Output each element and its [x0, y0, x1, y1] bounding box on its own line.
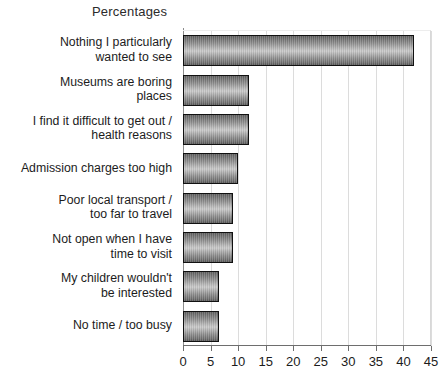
x-axis-tick-label: 45 [424, 354, 438, 369]
x-axis-tick-label: 15 [258, 354, 272, 369]
bar [183, 153, 238, 184]
x-axis-line [183, 345, 431, 346]
category-label: My children wouldn't be interested [0, 271, 172, 300]
x-axis-tick [348, 346, 349, 351]
x-axis-tick-label: 5 [207, 354, 214, 369]
category-label: Not open when I have time to visit [0, 232, 172, 261]
category-label: Nothing I particularly wanted to see [0, 35, 172, 64]
x-axis-tick [403, 346, 404, 351]
gridline [348, 31, 349, 346]
bar [183, 271, 219, 302]
x-axis-tick-label: 35 [369, 354, 383, 369]
x-axis-tick-label: 25 [314, 354, 328, 369]
gridline [266, 31, 267, 346]
category-label: I find it difficult to get out / health … [0, 114, 172, 143]
x-axis-tick [238, 346, 239, 351]
category-label: No time / too busy [0, 318, 172, 333]
bar [183, 193, 233, 224]
category-label: Museums are boring places [0, 75, 172, 104]
x-axis-tick [211, 346, 212, 351]
category-label: Admission charges too high [0, 161, 172, 176]
gridline [376, 31, 377, 346]
gridline [321, 31, 322, 346]
bar [183, 114, 249, 145]
plot-area [183, 30, 431, 345]
gridline [293, 31, 294, 346]
x-axis-tick [376, 346, 377, 351]
bar [183, 75, 249, 106]
bar [183, 232, 233, 263]
gridline [431, 31, 432, 346]
x-axis-tick-label: 20 [286, 354, 300, 369]
x-axis-tick-label: 0 [179, 354, 186, 369]
category-label-column: Nothing I particularly wanted to seeMuse… [0, 30, 180, 345]
bar-chart: Percentages Nothing I particularly wante… [0, 0, 439, 378]
x-axis-tick [183, 346, 184, 351]
x-axis-tick [321, 346, 322, 351]
bar [183, 311, 219, 342]
category-label: Poor local transport / too far to travel [0, 193, 172, 222]
x-axis-tick-label: 40 [396, 354, 410, 369]
x-axis-tick [266, 346, 267, 351]
gridline [403, 31, 404, 346]
x-axis-tick-label: 30 [341, 354, 355, 369]
x-axis-tick [293, 346, 294, 351]
x-axis-tick-label: 10 [231, 354, 245, 369]
chart-title: Percentages [92, 4, 167, 19]
bar [183, 35, 414, 66]
x-axis-tick [431, 346, 432, 351]
